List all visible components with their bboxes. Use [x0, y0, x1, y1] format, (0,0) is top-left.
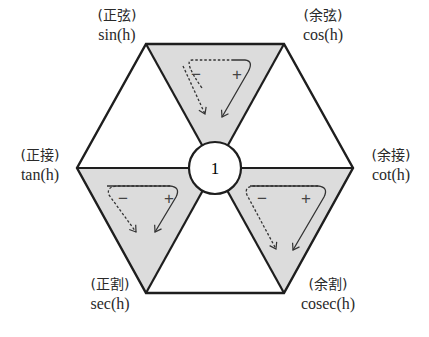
plus-sign-lower-left: + — [164, 189, 174, 208]
center-value: 1 — [211, 159, 220, 178]
label-cos-func: cos(h) — [288, 25, 358, 44]
label-cos-kanji: (余弦) — [288, 6, 358, 25]
label-cot: (余接) cot(h) — [356, 146, 426, 184]
label-cosec-func: cosec(h) — [288, 294, 368, 313]
label-cosec-kanji: (余割) — [288, 275, 368, 294]
label-cosec: (余割) cosec(h) — [288, 275, 368, 313]
minus-sign-top: − — [191, 65, 201, 84]
label-cot-kanji: (余接) — [356, 146, 426, 165]
plus-sign-top: + — [232, 65, 242, 84]
label-tan-kanji: (正接) — [5, 146, 75, 165]
label-sin-kanji: (正弦) — [82, 6, 152, 25]
label-sec-func: sec(h) — [75, 294, 145, 313]
label-sec: (正割) sec(h) — [75, 275, 145, 313]
label-tan-func: tan(h) — [5, 165, 75, 184]
label-tan: (正接) tan(h) — [5, 146, 75, 184]
label-sin: (正弦) sin(h) — [82, 6, 152, 44]
minus-sign-lower-left: − — [118, 189, 128, 208]
plus-sign-lower-right: + — [301, 189, 311, 208]
label-cot-func: cot(h) — [356, 165, 426, 184]
label-cos: (余弦) cos(h) — [288, 6, 358, 44]
minus-sign-lower-right: − — [257, 189, 267, 208]
label-sin-func: sin(h) — [82, 25, 152, 44]
label-sec-kanji: (正割) — [75, 275, 145, 294]
